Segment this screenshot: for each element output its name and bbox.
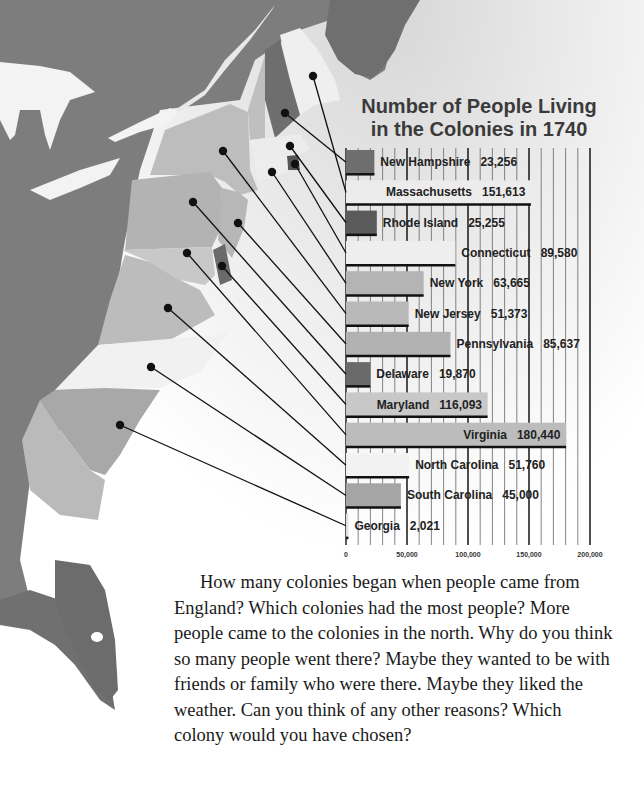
bar-label: North Carolina51,760	[415, 458, 545, 472]
bar-category: Pennsylvania	[456, 337, 533, 351]
leader-line	[151, 367, 346, 495]
bar-category: Delaware	[376, 367, 429, 381]
bar-category: Virginia	[463, 428, 507, 442]
bar-category: New Jersey	[415, 307, 481, 321]
map-marker-dot	[164, 304, 172, 312]
bar-label: Pennsylvania85,637	[456, 337, 579, 351]
bar-category: North Carolina	[415, 458, 498, 472]
map-marker-dot	[183, 249, 191, 257]
bar-value: 2,021	[410, 519, 440, 533]
bar-value: 51,373	[491, 307, 528, 321]
leader-line	[168, 308, 346, 465]
bar-label: South Carolina45,000	[407, 488, 539, 502]
bar-value: 63,665	[493, 276, 530, 290]
bar-category: New Hampshire	[380, 155, 470, 169]
map-marker-dot	[291, 160, 299, 168]
map-marker-dot	[147, 363, 155, 371]
leader-line	[313, 76, 346, 192]
bar-label: Virginia180,440	[463, 428, 560, 442]
bar	[346, 453, 409, 477]
bar-label: New Hampshire23,256	[380, 155, 517, 169]
map-marker-dot	[116, 421, 124, 429]
bar-category: Maryland	[377, 398, 430, 412]
bar-label: New York63,665	[430, 276, 530, 290]
leader-line	[193, 202, 346, 374]
bar-value: 116,093	[439, 398, 482, 412]
map-marker-dot	[234, 219, 242, 227]
bar-label: Delaware19,870	[376, 367, 475, 381]
bar-value: 151,613	[482, 185, 525, 199]
x-tick-label: 0	[344, 551, 348, 558]
bar-value: 89,580	[541, 246, 578, 260]
leader-line	[222, 266, 346, 405]
x-tick-label: 150,000	[516, 551, 541, 558]
map-marker-dot	[219, 147, 227, 155]
map-marker-dot	[218, 262, 226, 270]
map-marker-dot	[286, 142, 294, 150]
body-paragraph: How many colonies began when people came…	[174, 570, 614, 749]
bar-category: South Carolina	[407, 488, 492, 502]
x-tick-label: 100,000	[455, 551, 480, 558]
map-marker-dot	[268, 168, 276, 176]
map-marker-dot	[189, 198, 197, 206]
bar	[346, 211, 377, 235]
bar-label: New Jersey51,373	[415, 307, 528, 321]
bar	[346, 483, 401, 507]
bar	[346, 514, 348, 538]
bar	[346, 362, 370, 386]
bar-value: 23,256	[480, 155, 517, 169]
bar-category: New York	[430, 276, 484, 290]
bar-label: Georgia2,021	[354, 519, 439, 533]
leader-line	[223, 151, 346, 314]
bar-value: 45,000	[502, 488, 539, 502]
bar-category: Massachusetts	[386, 185, 472, 199]
leader-line	[238, 223, 346, 344]
bar-category: Georgia	[354, 519, 399, 533]
bar-label: Connecticut89,580	[461, 246, 577, 260]
bar-category: Connecticut	[461, 246, 530, 260]
bar-label: Rhode Island25,255	[383, 216, 505, 230]
bar-label: Maryland116,093	[377, 398, 482, 412]
bar-value: 51,760	[508, 458, 545, 472]
bar	[346, 150, 374, 174]
bar	[346, 241, 455, 265]
leader-line	[120, 425, 346, 526]
bar-value: 25,255	[468, 216, 505, 230]
bar	[346, 332, 450, 356]
x-tick-label: 200,000	[577, 551, 602, 558]
leader-line	[187, 253, 346, 435]
leader-line	[295, 164, 346, 253]
map-marker-dot	[281, 109, 289, 117]
bar-label: Massachusetts151,613	[386, 185, 525, 199]
bar-value: 180,440	[517, 428, 560, 442]
x-tick-label: 50,000	[396, 551, 417, 558]
bar-category: Rhode Island	[383, 216, 458, 230]
bar	[346, 271, 424, 295]
bar	[346, 302, 409, 326]
bar-value: 85,637	[543, 337, 580, 351]
leader-line	[285, 113, 346, 162]
bar-value: 19,870	[439, 367, 476, 381]
map-marker-dot	[309, 72, 317, 80]
